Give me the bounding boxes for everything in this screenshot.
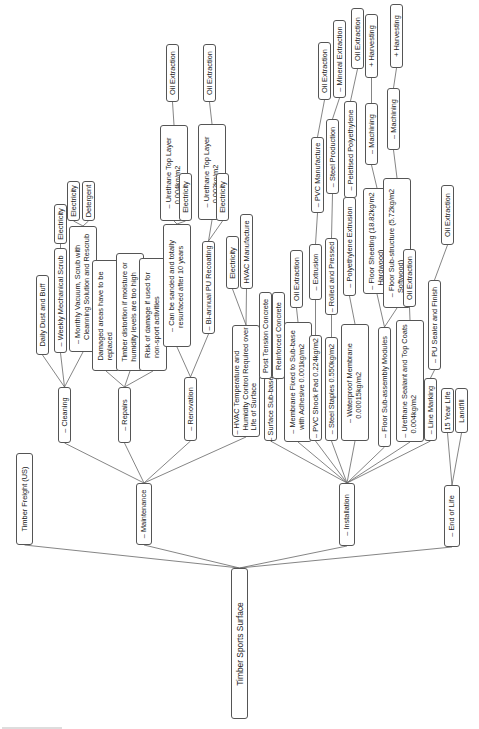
node-extrusion[interactable]: – Extrusion <box>309 244 322 300</box>
edge-sheeting-machining1 <box>372 165 378 188</box>
node-biannual[interactable]: – Bi-annual PU Recoating <box>202 241 215 334</box>
node-machining2[interactable]: – Machining <box>387 88 400 150</box>
node-staples[interactable]: – Steel Staples 0.550kg/m2 <box>325 337 338 441</box>
node-urethane-seal[interactable]: – Urethane Sealant and Top Coats 0.004kg… <box>396 320 424 442</box>
node-label: – Urethane Sealant and Top Coats 0.004kg… <box>401 324 418 437</box>
node-subbase[interactable]: – Surface Sub-base <box>264 377 277 441</box>
edge-maintenance-hvac <box>144 437 246 483</box>
node-label: – Steel Production <box>328 126 337 186</box>
edge-maintenance-renovation <box>144 441 191 483</box>
node-label: – HVAC Temperature and Humidity Control … <box>233 327 259 434</box>
node-membrane[interactable]: – Membrane Fixed to Sub-base with Adhesi… <box>284 322 312 442</box>
node-weekly-elec: Electricity <box>54 204 67 244</box>
node-label: – Maintenance <box>140 490 149 538</box>
node-label: Timber Freight (US) <box>20 466 29 531</box>
edge-rolled-steelprod <box>332 194 333 238</box>
node-weekly[interactable]: – Weekly Mechanical Scrub <box>54 248 67 353</box>
node-sanded[interactable]: – Can be sanded and totally resurfaced a… <box>163 224 191 347</box>
edge-ut2-ut2_oil <box>210 102 213 124</box>
edge-linemark-pusealer <box>431 370 435 378</box>
node-label: – Installation <box>343 494 352 536</box>
node-ut1-elec: Electricity <box>179 173 192 221</box>
edge-renovation-biannual <box>191 334 209 377</box>
edge-extrusion-pvcmanu <box>316 213 318 244</box>
node-label: – Waterproof Membrane 0.00015kg/m2 <box>346 343 363 423</box>
node-label: Electricity <box>228 247 237 279</box>
node-mineral[interactable]: – Mineral Extraction <box>333 20 346 98</box>
node-label: – Rolled and Pressed <box>327 241 336 312</box>
node-label: – PU Sealer and Finish <box>430 287 439 363</box>
edge-waterproof-polyext <box>350 296 356 324</box>
node-label: – Membrane Fixed to Sub-base with Adhesi… <box>289 330 306 434</box>
node-label: – Bi-annual PU Recoating <box>204 245 213 330</box>
node-monthly-elec: Electricity <box>67 181 80 221</box>
edge-root-installation <box>240 546 348 568</box>
node-label: – Monthly Vacuum, Scrub with Cleanning S… <box>74 234 91 344</box>
node-renovation[interactable]: – Renovation <box>184 377 197 441</box>
node-label: Detergent <box>84 185 93 217</box>
node-label: – Floor Sub-assembly Modules <box>380 336 389 438</box>
node-label: – Renovation <box>186 387 195 431</box>
node-pvcmanu[interactable]: – PVC Manufacture <box>311 137 324 213</box>
node-repairs[interactable]: – Repairs <box>118 387 131 443</box>
node-label: Landfill <box>457 399 466 422</box>
edge-hvac-hvac_manu <box>246 289 247 325</box>
node-freight: Timber Freight (US) <box>16 453 33 545</box>
node-peletised-oil: Oil Extraction <box>351 8 364 69</box>
node-label: Oil Extraction <box>292 257 301 301</box>
node-label: Oil Extraction <box>353 17 362 61</box>
node-label: – Steel Staples 0.550kg/m2 <box>327 344 336 434</box>
node-machining1[interactable]: – Machining <box>365 103 378 165</box>
node-hvac-manu: HVAC Manufacture <box>240 214 253 289</box>
node-label: Oil Extraction <box>443 193 452 237</box>
node-label: Electricity <box>218 181 227 213</box>
edge-root-freight <box>25 545 240 568</box>
node-installation[interactable]: – Installation <box>339 483 355 546</box>
node-label: – Extrusion <box>311 254 320 291</box>
node-label: + Harvesting <box>367 25 376 67</box>
node-label: Electricity <box>69 185 78 217</box>
node-label: – Machining <box>389 99 398 139</box>
node-pusealer[interactable]: – PU Sealer and Finish <box>428 280 441 370</box>
node-peletised[interactable]: – Peletised Polyethylene <box>344 101 357 198</box>
node-harvest1[interactable]: + Harvesting <box>365 14 378 78</box>
node-hvac[interactable]: – HVAC Temperature and Humidity Control … <box>232 325 260 437</box>
node-label: Damaged areas have to be replaced <box>97 271 114 360</box>
node-harvest2[interactable]: + Harvesting <box>390 4 403 68</box>
node-maintenance[interactable]: – Maintenance <box>136 483 152 545</box>
edge-root-maintenance <box>144 545 240 568</box>
edge-repairs-damaged <box>106 371 125 387</box>
node-pvc[interactable]: – PVC Shock Pad 0.224kg/m2 <box>309 335 322 441</box>
node-label: – Machining <box>367 114 376 154</box>
node-label: – PVC Shock Pad 0.224kg/m2 <box>311 338 320 438</box>
node-label: 15 Year Life <box>443 391 452 430</box>
node-rolled[interactable]: – Rolled and Pressed <box>325 238 338 315</box>
node-label: Electricity <box>181 181 190 213</box>
node-label: – Peletised Polyethylene <box>346 109 355 190</box>
node-waterproof[interactable]: – Waterproof Membrane 0.00015kg/m2 <box>341 324 369 441</box>
node-monthly-det: Detergent <box>82 181 95 221</box>
node-label: – Polyethylene Extrusion <box>345 206 354 287</box>
node-endoflife[interactable]: – End of Life <box>444 485 460 547</box>
node-label: Daily Dust and Buff <box>38 283 47 346</box>
node-label: HVAC Manufacture <box>242 220 251 283</box>
node-label: Oil Extraction <box>320 49 329 93</box>
node-steelprod[interactable]: – Steel Production <box>326 119 339 194</box>
node-cleaning[interactable]: – Cleaning <box>58 387 71 443</box>
node-label: Reinforced Concrete <box>274 302 283 370</box>
node-label: – Weekly Mechanical Scrub <box>56 255 65 346</box>
node-pvcmanu-oil: Oil Extraction <box>318 42 331 100</box>
node-membrane-oil: Oil Extraction <box>290 250 303 308</box>
node-linemark[interactable]: – Line Marking <box>424 378 437 441</box>
edge-membrane-membrane_oil <box>297 308 299 322</box>
node-polyext[interactable]: – Polyethylene Extrusion <box>343 197 356 296</box>
node-label: Electricity <box>56 208 65 240</box>
node-life15: 15 Year Life <box>441 388 454 433</box>
edge-installation-subbase <box>271 441 348 483</box>
edge-substructure-machining2 <box>394 150 398 178</box>
node-label: – Repairs <box>120 399 129 431</box>
edge-maintenance-repairs <box>125 443 145 483</box>
node-floormod[interactable]: – Floor Sub-assembly Modules <box>378 327 391 447</box>
edge-installation-linemark <box>347 441 431 483</box>
node-label: Oil Extraction <box>205 51 214 95</box>
